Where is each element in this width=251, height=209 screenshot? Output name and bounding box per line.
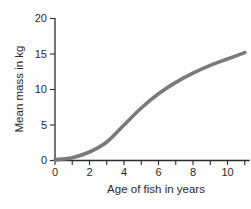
axes bbox=[54, 18, 249, 161]
x-tick-label: 6 bbox=[155, 166, 161, 178]
x-axis-title: Age of fish in years bbox=[107, 183, 205, 195]
x-axis-ticks: 0246810 bbox=[52, 161, 245, 179]
y-tick-label: 15 bbox=[35, 48, 47, 60]
x-tick-label: 0 bbox=[52, 166, 58, 178]
y-axis-title: Mean mass in kg bbox=[13, 46, 25, 133]
y-tick-label: 5 bbox=[41, 119, 47, 131]
y-tick-label: 10 bbox=[35, 83, 47, 95]
growth-curve-line bbox=[55, 53, 245, 160]
y-tick-label: 0 bbox=[41, 154, 47, 166]
x-tick-label: 2 bbox=[86, 166, 92, 178]
fish-growth-chart: 05101520 0246810 Mean mass in kg Age of … bbox=[0, 0, 251, 209]
y-tick-label: 20 bbox=[35, 12, 47, 24]
x-tick-label: 8 bbox=[190, 166, 196, 178]
y-axis-ticks: 05101520 bbox=[35, 12, 55, 166]
growth-curve-plot: 05101520 0246810 Mean mass in kg Age of … bbox=[0, 0, 251, 209]
x-tick-label: 4 bbox=[121, 166, 127, 178]
x-tick-label: 10 bbox=[221, 166, 233, 178]
